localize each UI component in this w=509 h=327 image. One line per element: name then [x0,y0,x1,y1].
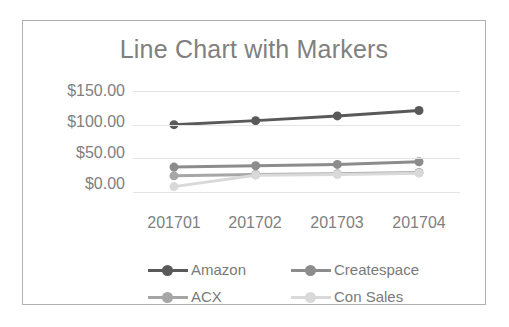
data-point-marker [333,111,342,120]
chart-legend: Amazon Createspace ACX Con Sales [128,259,428,311]
data-point-marker [251,171,260,180]
legend-label: Con Sales [334,289,403,305]
series-amazon [170,106,424,129]
gridline [133,91,460,92]
x-tick-label: 201704 [392,214,445,232]
data-point-marker [170,171,179,180]
data-point-marker [170,163,179,172]
gridline [133,158,460,159]
data-point-marker [333,160,342,169]
legend-dot [162,265,173,276]
legend-label: ACX [191,289,222,305]
x-tick-label: 201701 [147,214,200,232]
legend-marker-icon [291,291,331,303]
legend-dot [305,265,316,276]
legend-item-amazon[interactable]: Amazon [148,259,246,281]
legend-marker-icon [148,291,188,303]
gridline [133,192,460,193]
legend-marker-icon [148,264,188,276]
legend-label: Createspace [334,262,419,278]
chart-frame: Line Chart with Markers $150.00 $100.00 … [22,20,486,305]
x-axis: 201701 201702 201703 201704 [133,214,460,236]
legend-label: Amazon [191,262,246,278]
legend-item-acx[interactable]: ACX [148,286,222,308]
y-tick-label: $150.00 [37,83,125,99]
data-point-marker [333,170,342,179]
legend-dot [162,292,173,303]
series-createspace [170,157,424,171]
data-point-marker [251,161,260,170]
series-line [174,162,419,167]
gridline [133,125,460,126]
x-tick-label: 201703 [310,214,363,232]
y-tick-label: $0.00 [37,176,125,192]
legend-item-con-sales[interactable]: Con Sales [291,286,403,308]
data-point-marker [170,182,179,191]
chart-title: Line Chart with Markers [23,35,485,64]
x-tick-label: 201702 [228,214,281,232]
legend-marker-icon [291,264,331,276]
y-tick-label: $50.00 [37,145,125,161]
data-point-marker [415,106,424,115]
legend-dot [305,292,316,303]
y-tick-label: $100.00 [37,114,125,130]
legend-item-createspace[interactable]: Createspace [291,259,419,281]
series-line [174,111,419,125]
y-axis: $150.00 $100.00 $50.00 $0.00 [37,83,125,200]
series-layer [133,91,460,192]
plot-area [133,91,460,192]
data-point-marker [415,169,424,178]
